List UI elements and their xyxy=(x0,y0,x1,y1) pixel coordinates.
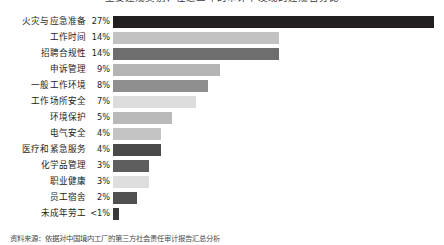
bar-segment xyxy=(113,32,279,44)
bar-category-label: 一般工作环境 xyxy=(0,78,86,94)
bar-segment xyxy=(113,208,119,220)
bar-segment xyxy=(113,96,196,108)
bar-category-label: 未成年劳工 xyxy=(0,206,86,222)
bar-segment xyxy=(113,176,149,188)
bar-segment xyxy=(113,16,434,28)
bar-value-label: 2% xyxy=(88,190,110,206)
bar-category-label: 工作时间 xyxy=(0,30,86,46)
bar-value-label: <1% xyxy=(88,206,110,222)
bar-segment xyxy=(113,160,149,172)
bar-value-label: 27% xyxy=(88,14,110,30)
chart-bar-row: 化学品管理3% xyxy=(0,158,444,174)
chart-source-container: 资料来源：依据对中国境内工厂的第三方社会责任审计报告汇总分析 xyxy=(0,233,444,245)
chart-bar-row: 环境保护5% xyxy=(0,110,444,126)
bar-segment xyxy=(113,48,279,60)
bar-value-label: 8% xyxy=(88,78,110,94)
bar-value-label: 3% xyxy=(88,174,110,190)
bar-category-label: 工作场所安全 xyxy=(0,94,86,110)
chart-bar-row: 工作场所安全7% xyxy=(0,94,444,110)
chart-bar-row: 火灾与应急准备27% xyxy=(0,14,444,30)
bar-segment xyxy=(113,112,172,124)
bar-value-label: 14% xyxy=(88,46,110,62)
chart-bar-row: 申诉管理9% xyxy=(0,62,444,78)
bar-category-label: 火灾与应急准备 xyxy=(0,14,86,30)
bar-value-label: 4% xyxy=(88,142,110,158)
bar-category-label: 职业健康 xyxy=(0,174,86,190)
bar-category-label: 化学品管理 xyxy=(0,158,86,174)
chart-bar-row: 电气安全4% xyxy=(0,126,444,142)
bar-category-label: 员工宿舍 xyxy=(0,190,86,206)
chart-plot-area: 火灾与应急准备27%工作时间14%招聘合规性14%申诉管理9%一般工作环境8%工… xyxy=(0,14,444,224)
chart-title-container: 主要违规类别：在近三年的审计中发现的违规百分比 xyxy=(0,0,444,5)
bar-value-label: 4% xyxy=(88,126,110,142)
chart-bar-row: 未成年劳工<1% xyxy=(0,206,444,222)
bar-category-label: 招聘合规性 xyxy=(0,46,86,62)
bar-category-label: 医疗和紧急服务 xyxy=(0,142,86,158)
bar-value-label: 5% xyxy=(88,110,110,126)
bar-value-label: 14% xyxy=(88,30,110,46)
bar-segment xyxy=(113,64,220,76)
chart-bar-row: 员工宿舍2% xyxy=(0,190,444,206)
bar-category-label: 申诉管理 xyxy=(0,62,86,78)
chart-bar-row: 招聘合规性14% xyxy=(0,46,444,62)
bar-segment xyxy=(113,80,208,92)
chart-bar-row: 职业健康3% xyxy=(0,174,444,190)
bar-value-label: 9% xyxy=(88,62,110,78)
chart-source-note: 资料来源：依据对中国境内工厂的第三方社会责任审计报告汇总分析 xyxy=(0,233,444,244)
bar-segment xyxy=(113,192,137,204)
bar-value-label: 3% xyxy=(88,158,110,174)
bar-value-label: 7% xyxy=(88,94,110,110)
chart-title: 主要违规类别：在近三年的审计中发现的违规百分比 xyxy=(0,0,444,4)
bar-category-label: 电气安全 xyxy=(0,126,86,142)
bar-segment xyxy=(113,144,161,156)
chart-bar-row: 医疗和紧急服务4% xyxy=(0,142,444,158)
chart-bar-row: 工作时间14% xyxy=(0,30,444,46)
bar-segment xyxy=(113,128,161,140)
bar-category-label: 环境保护 xyxy=(0,110,86,126)
chart-bar-row: 一般工作环境8% xyxy=(0,78,444,94)
